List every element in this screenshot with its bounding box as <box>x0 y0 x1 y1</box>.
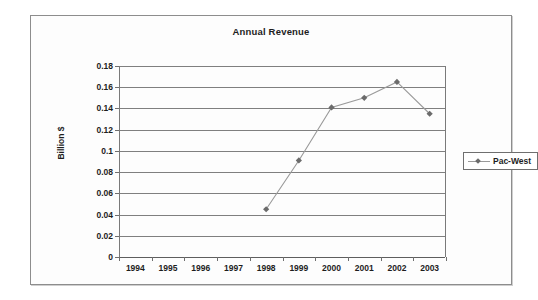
x-axis-tick-mark <box>184 257 185 261</box>
x-axis-tick-label: 2003 <box>408 263 452 273</box>
chart-legend[interactable]: Pac-West <box>463 152 538 170</box>
series-line <box>266 82 430 209</box>
y-axis-tick-label: 0.08 <box>67 167 113 177</box>
x-axis-tick-mark <box>446 257 447 261</box>
x-axis-tick-mark <box>315 257 316 261</box>
chart-title: Annual Revenue <box>31 26 511 37</box>
x-axis-tick-mark <box>348 257 349 261</box>
x-axis-tick-mark <box>152 257 153 261</box>
x-axis-tick-mark <box>381 257 382 261</box>
x-axis-tick-mark <box>217 257 218 261</box>
x-axis-tick-labels: 1994199519961997199819992000200120022003 <box>119 263 446 279</box>
chart-frame: Annual Revenue Billion $ 00.020.040.060.… <box>30 15 512 285</box>
y-axis-title: Billion $ <box>56 103 66 183</box>
y-axis-tick-labels: 00.020.040.060.080.10.120.140.160.18 <box>67 66 113 257</box>
y-axis-tick-label: 0.04 <box>67 210 113 220</box>
x-axis-tick-mark <box>250 257 251 261</box>
y-axis-tick-label: 0.14 <box>67 103 113 113</box>
x-axis-tick-marks <box>119 257 446 262</box>
x-axis-tick-mark <box>119 257 120 261</box>
data-point-marker[interactable] <box>296 157 302 163</box>
data-point-marker[interactable] <box>263 206 269 212</box>
series-pac-west <box>119 66 446 257</box>
y-axis-tick-label: 0 <box>67 252 113 262</box>
x-axis-tick-mark <box>283 257 284 261</box>
y-axis-tick-label: 0.06 <box>67 188 113 198</box>
y-axis-tick-label: 0.12 <box>67 125 113 135</box>
y-axis-tick-label: 0.18 <box>67 61 113 71</box>
data-point-marker[interactable] <box>328 104 334 110</box>
x-axis-tick-mark <box>413 257 414 261</box>
y-axis-tick-label: 0.1 <box>67 146 113 156</box>
legend-item-label: Pac-West <box>493 156 531 166</box>
y-axis-tick-label: 0.16 <box>67 82 113 92</box>
y-axis-tick-label: 0.02 <box>67 231 113 241</box>
data-point-marker[interactable] <box>361 95 367 101</box>
legend-marker-icon <box>468 157 490 166</box>
